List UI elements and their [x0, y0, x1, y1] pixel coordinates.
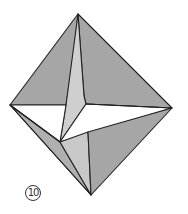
face-upper-right: [78, 14, 172, 108]
step-number-badge: 10: [25, 185, 41, 201]
octahedron-diagram: [0, 0, 188, 214]
